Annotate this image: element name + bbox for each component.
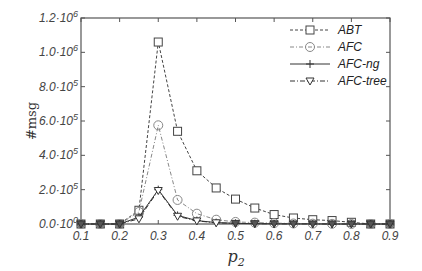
x-tick-label: 0.9 xyxy=(382,229,399,243)
legend-item-afc-tree: AFC-tree xyxy=(290,74,387,88)
series-afc xyxy=(77,121,395,229)
square-marker xyxy=(306,26,314,34)
y-axis-title: #msg xyxy=(24,102,39,140)
y-tick-label: 4.0·105 xyxy=(39,146,79,162)
y-tick-label: 6.0·105 xyxy=(39,112,79,128)
legend-label: ABT xyxy=(337,23,363,37)
legend-item-abt: ABT xyxy=(290,23,363,37)
square-marker xyxy=(174,127,182,135)
y-tick-label: 2.0·105 xyxy=(38,181,79,197)
x-tick-label: 0.3 xyxy=(150,229,167,243)
legend-item-afc-ng: AFC-ng xyxy=(290,57,380,71)
x-tick-label: 0.2 xyxy=(111,229,128,243)
plus-marker xyxy=(306,60,314,68)
legend-label: AFC-ng xyxy=(337,57,380,71)
square-marker xyxy=(154,38,162,46)
legend-label: AFC-tree xyxy=(337,74,387,88)
x-tick-label: 0.4 xyxy=(189,229,206,243)
x-tick-label: 0.1 xyxy=(73,229,90,243)
square-marker xyxy=(232,195,240,203)
y-tick-label: 8.0·105 xyxy=(39,78,79,94)
square-marker xyxy=(251,204,259,212)
square-marker xyxy=(193,167,201,175)
x-axis-title: p2 xyxy=(227,247,244,269)
legend-label: AFC xyxy=(337,40,362,54)
line-chart: 0.0·1002.0·1054.0·1056.0·1058.0·1051.0·1… xyxy=(0,0,422,271)
square-marker xyxy=(270,211,278,219)
x-tick-label: 0.7 xyxy=(304,229,322,243)
legend: ABTAFCAFC-ngAFC-tree xyxy=(290,23,387,88)
x-tick-label: 0.6 xyxy=(266,229,283,243)
y-tick-label: 1.2·106 xyxy=(39,9,78,25)
y-tick-label: 1.0·106 xyxy=(39,43,78,59)
x-tick-label: 0.5 xyxy=(227,229,244,243)
triangle-down-marker xyxy=(135,216,143,223)
square-marker xyxy=(212,184,220,192)
legend-item-afc: AFC xyxy=(290,40,362,54)
x-tick-label: 0.8 xyxy=(343,229,360,243)
series-line xyxy=(81,125,390,224)
